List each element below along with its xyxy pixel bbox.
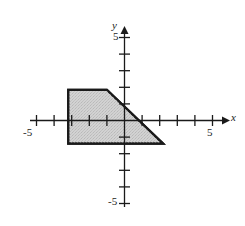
x-axis-arrowhead (222, 117, 230, 125)
graph-canvas (0, 0, 245, 226)
region-stipple-texture (66, 87, 166, 147)
y-axis-tick-label-positive-5: 5 (113, 31, 119, 42)
x-axis-label: x (231, 112, 236, 123)
y-axis-arrowhead (121, 26, 129, 34)
y-axis-tick-label-negative-5: -5 (108, 196, 117, 207)
coordinate-plane-figure: y x -5 5 5 -5 (0, 0, 245, 226)
x-axis-tick-label-positive-5: 5 (207, 127, 213, 138)
x-axis-tick-label-negative-5: -5 (23, 127, 32, 138)
